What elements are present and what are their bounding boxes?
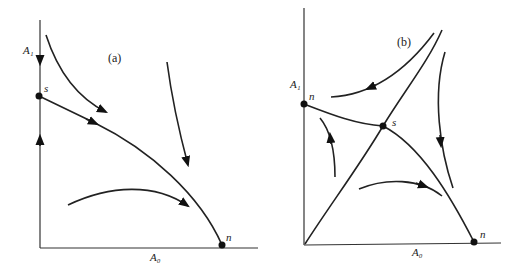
a-saddle-point-s (36, 93, 43, 100)
a-separatrix-arrow-icon (86, 119, 97, 124)
a-flow-arrow-right (167, 62, 188, 165)
b-flow-right (438, 52, 453, 188)
panel-a: A₁ (a) s n A₀ (22, 20, 258, 263)
b-node-point-n-top (301, 101, 308, 108)
a-node-point-n (219, 242, 226, 249)
b-flow-bottom (359, 181, 442, 196)
b-label-n-top: n (309, 90, 315, 102)
panel-b: A₁ (b) n s n A₀ (289, 8, 501, 258)
b-saddle-point-s (380, 123, 387, 130)
a-flow-arrow-bottom (68, 189, 188, 206)
a-x-axis-label: A₀ (149, 251, 161, 263)
b-panel-tag: (b) (397, 35, 411, 49)
a-separatrix (39, 96, 222, 245)
b-label-s: s (392, 116, 396, 128)
b-diagonal-separatrix (305, 30, 442, 244)
a-y-axis-label: A₁ (22, 44, 34, 56)
b-flow-right-arrow-icon (440, 135, 441, 146)
b-flow-left (320, 118, 335, 177)
b-separatrix-top (304, 104, 383, 126)
a-label-s: s (44, 82, 48, 94)
b-x-axis-label: A₀ (411, 246, 423, 258)
a-panel-tag: (a) (108, 51, 121, 65)
b-y-axis-label: A₁ (289, 78, 301, 90)
b-flow-left-arrow-icon (330, 134, 331, 144)
b-flow-bottom-arrow-icon (416, 183, 427, 187)
b-flow-top (331, 33, 434, 97)
b-separatrix-right (383, 126, 474, 242)
a-flow-arrow-top-left (46, 35, 106, 112)
phase-portrait-figure: A₁ (a) s n A₀ A₁ (b) n s n A₀ (0, 0, 528, 270)
b-label-n-right: n (480, 228, 486, 240)
b-flow-top-arrow-icon (367, 85, 376, 89)
b-node-point-n-right (471, 239, 478, 246)
a-label-n: n (226, 231, 232, 243)
